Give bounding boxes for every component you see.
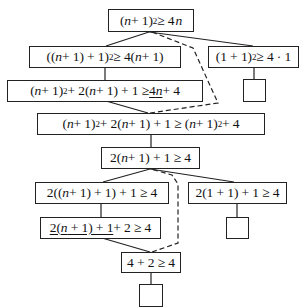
var: n: [62, 185, 69, 201]
edge-n1-n2: [106, 32, 149, 46]
goal-node-n3: (1 + 1)2 ≥ 4 · 1: [208, 46, 299, 68]
text: + 1) + 1) + 1 ≥ 4: [69, 185, 157, 201]
var: n: [55, 49, 62, 65]
text: ≥ 4: [157, 13, 174, 29]
text: 2((: [47, 185, 62, 201]
edge-n6-n8: [150, 169, 234, 182]
var: n: [156, 83, 163, 98]
text: ≥ 4(: [113, 49, 135, 65]
var: n: [124, 13, 131, 29]
text: + 1): [41, 83, 63, 99]
edge-n4-n5: [106, 101, 148, 113]
text: + 4: [162, 83, 179, 99]
text: 4: [149, 83, 156, 98]
text: + 1) + 1 ≥: [96, 83, 149, 99]
goal-node-n7: 2((n + 1) + 1) + 1 ≥ 4: [35, 182, 169, 204]
text: + 1): [142, 49, 164, 65]
edge-n6-n7: [103, 169, 150, 182]
goal-node-n6: 2(n + 1) + 1 ≥ 4: [101, 147, 200, 169]
var: n: [67, 116, 74, 132]
text: + 1) + 1 ≥ 4: [128, 150, 191, 166]
var: n: [89, 83, 96, 99]
goal-node-n4: (n + 1)2 + 2(n + 1) + 1 ≥ 4n + 4: [7, 80, 203, 102]
edge-n9-n10: [102, 238, 150, 252]
closed-leaf-box: [243, 79, 266, 102]
closed-leaf-box: [226, 217, 249, 239]
goal-node-n8: 2(1 + 1) + 1 ≥ 4: [188, 182, 287, 204]
edge-n1-n3: [149, 32, 253, 46]
text: 4 + 2 ≥ 4: [127, 255, 175, 271]
var: n: [189, 116, 196, 132]
text: + 2 ≥ 4: [113, 220, 151, 236]
goal-node-n5: (n + 1)2 + 2(n + 1) + 1 ≥ (n + 1)2 + 4: [37, 113, 265, 135]
text: + 1): [74, 116, 96, 132]
text: ((: [47, 49, 56, 65]
underlined-term: 4n: [149, 83, 162, 99]
goal-node-n10: 4 + 2 ≥ 4: [121, 252, 181, 273]
text: + 1) + 1 ≥ (: [128, 116, 189, 132]
text: (1 + 1): [216, 49, 252, 65]
var: n: [175, 13, 182, 29]
text: ≥ 4 · 1: [256, 49, 291, 65]
var: n: [135, 49, 142, 65]
text: + 1) + 1: [67, 220, 113, 235]
var: n: [35, 83, 42, 99]
text: + 1): [196, 116, 218, 132]
text: + 4: [222, 116, 239, 132]
goal-node-n2: ((n + 1) + 1)2 ≥ 4(n + 1): [29, 46, 181, 68]
text: 2(: [110, 150, 121, 166]
var: n: [122, 116, 129, 132]
goal-node-n9: 2(n + 1) + 1 + 2 ≥ 4: [40, 217, 161, 239]
var: n: [121, 150, 128, 166]
text: + 1) + 1): [62, 49, 109, 65]
text: 2(: [50, 220, 61, 235]
text: + 1): [131, 13, 153, 29]
goal-node-n1: (n + 1)2 ≥ 4 n: [108, 9, 194, 32]
underlined-term: 2(n + 1) + 1: [50, 220, 114, 236]
text: + 2(: [67, 83, 89, 99]
closed-leaf-box: [139, 284, 163, 307]
text: 2(1 + 1) + 1 ≥ 4: [195, 185, 279, 201]
text: + 2(: [100, 116, 122, 132]
